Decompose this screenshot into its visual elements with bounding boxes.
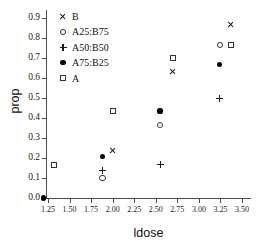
legend-label: A xyxy=(72,72,79,85)
x-tick xyxy=(91,199,92,203)
x-tick xyxy=(177,199,178,203)
legend-label: B xyxy=(72,10,79,23)
y-tick-label: 0.9 xyxy=(16,13,40,23)
y-tick xyxy=(42,178,46,179)
x-tick xyxy=(242,199,243,203)
legend-item-a50-b50: A50:B50 xyxy=(58,40,132,55)
legend-item-b: B xyxy=(58,9,132,24)
x-axis-title: ldose xyxy=(46,226,251,240)
y-tick-label: 0.3 xyxy=(16,133,40,143)
legend-marker-cross-icon xyxy=(58,9,70,24)
x-tick-label: 3.50 xyxy=(229,206,255,214)
y-tick xyxy=(42,18,46,19)
legend-marker-plus-icon xyxy=(58,40,70,55)
y-tick xyxy=(42,58,46,59)
legend-label: A25:B75 xyxy=(72,25,109,38)
x-tick xyxy=(156,199,157,203)
y-tick xyxy=(42,38,46,39)
legend: BA25:B75A50:B50A75:B25A xyxy=(58,9,132,86)
legend-label: A75:B25 xyxy=(72,56,109,69)
y-tick-label: 0.7 xyxy=(16,53,40,63)
x-tick xyxy=(134,199,135,203)
y-tick xyxy=(42,78,46,79)
y-axis-line xyxy=(46,10,47,199)
y-axis-title: prop xyxy=(8,73,22,129)
x-tick xyxy=(199,199,200,203)
y-tick xyxy=(42,98,46,99)
x-tick xyxy=(70,199,71,203)
x-tick xyxy=(113,199,114,203)
y-tick-label: 0.8 xyxy=(16,33,40,43)
x-tick xyxy=(220,199,221,203)
legend-marker-circle-open-icon xyxy=(58,24,70,39)
y-tick-label: 0.2 xyxy=(16,153,40,163)
legend-marker-square-open-icon xyxy=(58,71,70,86)
x-tick xyxy=(48,199,49,203)
legend-item-a75-b25: A75:B25 xyxy=(58,55,132,70)
legend-item-a25-b75: A25:B75 xyxy=(58,24,132,39)
y-tick-label: 0.0 xyxy=(16,193,40,203)
scatter-plot: 0.00.10.20.30.40.50.60.70.80.9 1.251.501… xyxy=(0,0,268,250)
legend-item-a: A xyxy=(58,71,132,86)
y-tick-label: 0.1 xyxy=(16,173,40,183)
y-tick xyxy=(42,138,46,139)
legend-label: A50:B50 xyxy=(72,41,109,54)
y-tick xyxy=(42,118,46,119)
y-tick xyxy=(42,158,46,159)
legend-marker-circle-filled-icon xyxy=(58,55,70,70)
